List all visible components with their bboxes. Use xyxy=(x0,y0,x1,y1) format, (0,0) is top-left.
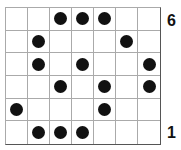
grid-cell xyxy=(116,31,138,54)
dot-icon xyxy=(76,12,89,25)
dot-icon xyxy=(120,35,133,48)
grid-cell xyxy=(28,121,50,144)
grid-cell xyxy=(116,99,138,122)
grid-cell xyxy=(6,121,28,144)
dot-icon xyxy=(143,80,156,93)
grid-cell xyxy=(50,8,72,31)
grid-cell xyxy=(72,121,94,144)
grid-cell xyxy=(28,53,50,76)
grid-cell xyxy=(28,31,50,54)
grid-cell xyxy=(72,76,94,99)
dot-icon xyxy=(10,103,23,116)
grid-cell xyxy=(50,99,72,122)
dot-icon xyxy=(32,126,45,139)
grid-cell xyxy=(28,8,50,31)
grid-cell xyxy=(138,8,160,31)
grid-cell xyxy=(50,121,72,144)
dot-icon xyxy=(54,80,67,93)
grid-cell xyxy=(94,31,116,54)
grid-cell xyxy=(94,8,116,31)
grid-cell xyxy=(116,8,138,31)
grid-cell xyxy=(28,99,50,122)
dot-grid xyxy=(5,7,161,145)
dot-icon xyxy=(98,80,111,93)
grid-cell xyxy=(6,99,28,122)
grid-cell xyxy=(72,99,94,122)
grid-cell xyxy=(116,121,138,144)
dot-icon xyxy=(32,58,45,71)
grid-cell xyxy=(94,53,116,76)
grid-cell xyxy=(94,99,116,122)
grid-cell xyxy=(72,53,94,76)
grid-cell xyxy=(138,121,160,144)
grid-cell xyxy=(116,53,138,76)
grid-cell xyxy=(50,76,72,99)
grid-cell xyxy=(138,76,160,99)
dot-icon xyxy=(76,126,89,139)
grid-cell xyxy=(116,76,138,99)
grid-cell xyxy=(94,121,116,144)
grid-cell xyxy=(138,31,160,54)
grid-cell xyxy=(94,76,116,99)
grid-cell xyxy=(72,31,94,54)
grid-cell xyxy=(6,8,28,31)
dot-icon xyxy=(143,58,156,71)
dot-icon xyxy=(98,12,111,25)
grid-cell xyxy=(6,76,28,99)
grid-cell xyxy=(6,53,28,76)
row-label-top: 6 xyxy=(167,12,176,30)
dot-icon xyxy=(98,103,111,116)
dot-icon xyxy=(76,58,89,71)
grid-cell xyxy=(138,99,160,122)
grid-cell xyxy=(28,76,50,99)
grid-cell xyxy=(138,53,160,76)
grid-cell xyxy=(72,8,94,31)
grid-cell xyxy=(50,53,72,76)
row-label-bottom: 1 xyxy=(167,124,176,142)
grid-cell xyxy=(50,31,72,54)
dot-icon xyxy=(54,12,67,25)
dot-icon xyxy=(32,35,45,48)
dot-icon xyxy=(54,126,67,139)
grid-cell xyxy=(6,31,28,54)
